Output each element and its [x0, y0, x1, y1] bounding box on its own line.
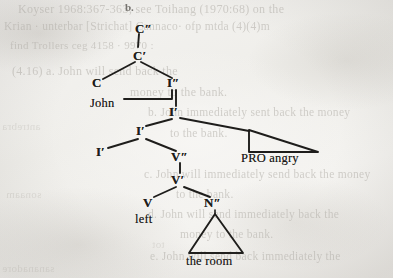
bleed-text-line: Koyser 1968:367-363; see Toihang (1970:6… — [18, 2, 284, 17]
bleed-text-line: antrebra — [2, 120, 40, 132]
tree-node-c-double-bar: C″ — [135, 22, 152, 35]
bleed-text-line: tot — [152, 238, 165, 250]
paper-texture — [0, 0, 393, 278]
syntax-tree-lines — [0, 0, 393, 278]
the-room-triangle — [189, 214, 243, 253]
tree-node-i-bar-upper: I′ — [169, 105, 178, 118]
tree-node-i: I′ — [96, 145, 105, 158]
tree-node-c-bar: C′ — [133, 49, 146, 62]
tree-leaf-pro-angry: PRO angry — [241, 152, 299, 165]
tree-node-v-bar: V′ — [171, 173, 184, 186]
branch-imax-john — [124, 90, 172, 99]
tree-node-n-double-bar: N″ — [204, 196, 221, 209]
bleed-text-line: d. John will send immediately back the — [148, 208, 339, 220]
scanned-page: Koyser 1968:367-363; see Toihang (1970:6… — [0, 0, 393, 278]
branch-ibar2-i — [108, 139, 138, 148]
pro-angry-triangle — [249, 130, 318, 152]
bleed-text-line: to the bank. — [170, 127, 228, 139]
branch-ibar1-proangry — [180, 118, 249, 131]
tree-leaf-left: left — [135, 213, 152, 226]
branch-cbar-c — [103, 62, 135, 79]
bleed-text-line: e. John will send back immediately the — [150, 250, 341, 262]
bleed-text-line: money to the bank. — [180, 228, 274, 240]
tree-node-v-double-bar: V″ — [171, 150, 188, 163]
bleed-text-line: sonaam — [6, 188, 41, 200]
example-label-b: b. — [125, 1, 134, 13]
tree-node-v: V — [143, 196, 152, 209]
tree-node-i-bar-lower: I′ — [136, 124, 145, 137]
branch-vbar-v — [154, 187, 176, 197]
tree-node-i-double-bar: I″ — [167, 76, 179, 89]
branch-ibar1-ibar2 — [146, 119, 172, 126]
scan-vignette — [0, 0, 393, 278]
tree-leaf-john: John — [90, 97, 114, 110]
bleed-text-line: sananadore — [2, 262, 54, 274]
tree-leaf-the-room: the room — [186, 255, 232, 268]
bleed-text-line: b. John immediately sent back the money — [148, 106, 350, 118]
bleed-through-text-layer: Koyser 1968:367-363; see Toihang (1970:6… — [0, 0, 393, 278]
tree-node-c: C — [92, 76, 101, 89]
